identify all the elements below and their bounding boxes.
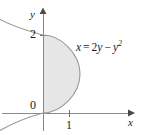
- figure-container: y x 2 1 0 x=2y−y2: [0, 0, 142, 135]
- y-tick-label-2: 2: [30, 28, 36, 40]
- x-tick-label-1: 1: [66, 119, 72, 131]
- origin-label: 0: [30, 99, 36, 111]
- curve-equation-label: x=2y−y2: [76, 42, 122, 54]
- y-axis-arrow-icon: [40, 8, 47, 15]
- plot-canvas: [0, 0, 142, 135]
- y-axis-label: y: [30, 9, 35, 20]
- x-axis-label: x: [128, 117, 133, 128]
- equation-term1-var: y: [97, 41, 102, 53]
- equation-lhs: x: [76, 41, 81, 53]
- equation-term2-exponent: 2: [118, 39, 122, 48]
- shaded-region: [43, 35, 80, 113]
- equation-operator: −: [104, 41, 111, 53]
- equation-relation: =: [83, 41, 90, 53]
